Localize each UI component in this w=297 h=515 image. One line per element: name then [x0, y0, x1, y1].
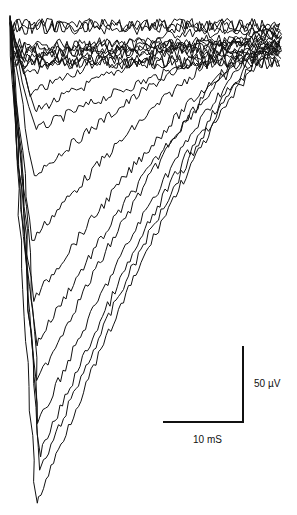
trace-line — [10, 23, 281, 130]
time-scale-label: 10 mS — [193, 434, 222, 445]
evoked-potential-figure: 50 µV 10 mS — [0, 0, 297, 515]
voltage-scale-label: 50 µV — [254, 378, 280, 389]
trace-line — [10, 21, 281, 380]
traces-plot — [0, 0, 297, 515]
